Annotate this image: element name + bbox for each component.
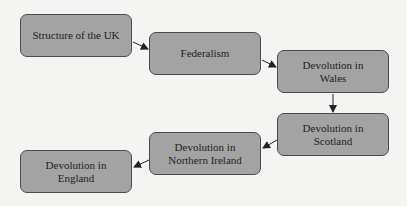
node-label: Federalism: [181, 47, 230, 60]
flowchart-canvas: Structure of the UK Federalism Devolutio…: [0, 0, 407, 206]
node-label-line2: Wales: [303, 72, 364, 85]
node-devolution-in-england: Devolution in England: [20, 150, 132, 193]
node-label-line1: Devolution in: [168, 141, 242, 154]
node-label: Structure of the UK: [32, 29, 119, 42]
node-label-line1: Devolution in: [46, 159, 107, 172]
node-federalism: Federalism: [149, 32, 261, 75]
node-devolution-in-wales: Devolution in Wales: [277, 50, 389, 93]
arrow-northern-ireland-to-england: [134, 160, 149, 167]
node-label-line1: Devolution in: [303, 122, 364, 135]
node-structure-of-the-uk: Structure of the UK: [20, 14, 132, 57]
node-label-line2: England: [46, 172, 107, 185]
node-label-line1: Devolution in: [303, 59, 364, 72]
node-label-line2: Scotland: [303, 135, 364, 148]
node-label-line2: Northern Ireland: [168, 154, 242, 167]
node-devolution-in-northern-ireland: Devolution in Northern Ireland: [149, 132, 261, 175]
arrow-federalism-to-wales: [262, 60, 276, 67]
node-devolution-in-scotland: Devolution in Scotland: [277, 113, 389, 156]
arrow-scotland-to-northern-ireland: [263, 140, 277, 148]
arrow-structure-to-federalism: [133, 42, 148, 49]
